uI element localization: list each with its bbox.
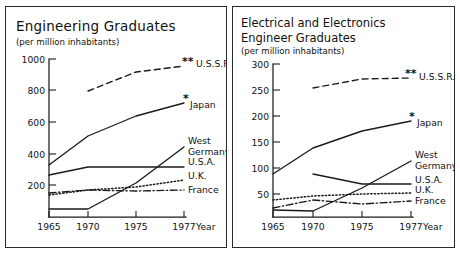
y-tick-label-200: 200 bbox=[27, 180, 45, 191]
series-line-ussr bbox=[313, 78, 411, 88]
series-line-japan bbox=[273, 121, 411, 174]
x-tick-label-1970: 1970 bbox=[76, 221, 100, 232]
series-label-france: France bbox=[415, 195, 446, 206]
y-tick-label-200: 200 bbox=[251, 111, 269, 122]
y-tick-label-400: 400 bbox=[27, 149, 45, 160]
y-tick-label-600: 600 bbox=[27, 117, 45, 128]
chart-panel-electrical-electronics-engineer-graduates: Electrical and Electronics Engineer Grad… bbox=[232, 6, 455, 248]
chart-subtitle: (per million inhabitants) bbox=[16, 37, 119, 47]
x-tick-label-1975: 1975 bbox=[350, 221, 374, 232]
y-tick-marks bbox=[273, 64, 280, 194]
x-tick-label-1965: 1965 bbox=[37, 221, 61, 232]
y-tick-label-150: 150 bbox=[251, 137, 269, 148]
x-tick-label-1977: 1977 bbox=[172, 221, 196, 232]
series-line-west-germany bbox=[49, 147, 184, 209]
y-tick-marks bbox=[49, 59, 56, 185]
series-label-usa: U.S.A. bbox=[188, 156, 215, 167]
y-tick-label-300: 300 bbox=[251, 59, 269, 70]
series-label-uk: U.K. bbox=[188, 170, 207, 181]
chart-subtitle: (per million inhabitants) bbox=[241, 46, 344, 56]
x-axis-caption: Year bbox=[422, 221, 443, 232]
engineering-graduates-chart: Engineering Graduates (per million inhab… bbox=[6, 7, 226, 247]
series-line-uk bbox=[273, 193, 411, 200]
x-tick-marks bbox=[49, 211, 184, 217]
series-line-france bbox=[273, 200, 411, 208]
series-line-usa bbox=[313, 174, 411, 184]
x-tick-marks bbox=[273, 211, 411, 217]
x-tick-label-1977: 1977 bbox=[399, 221, 423, 232]
figure-root: Engineering Graduates (per million inhab… bbox=[0, 0, 460, 254]
electrical-electronics-chart: Electrical and Electronics Engineer Grad… bbox=[233, 7, 454, 247]
x-tick-label-1975: 1975 bbox=[124, 221, 148, 232]
chart-panel-engineering-graduates: Engineering Graduates (per million inhab… bbox=[5, 6, 227, 248]
series-label-ussr: U.S.S.R. bbox=[419, 71, 454, 82]
chart-title: Engineering Graduates bbox=[16, 18, 176, 34]
series-line-west-germany bbox=[273, 161, 411, 211]
marker-ussr-double-star: ** bbox=[182, 55, 194, 68]
chart-title-line2: Engineer Graduates bbox=[241, 31, 356, 45]
series-line-usa bbox=[49, 167, 184, 175]
series-line-japan bbox=[49, 103, 184, 165]
series-label-west-germany-line1: WestGermany bbox=[188, 135, 226, 157]
marker-ussr-double-star: ** bbox=[405, 67, 417, 80]
y-tick-label-1000: 1000 bbox=[22, 54, 46, 65]
series-line-ussr bbox=[88, 66, 184, 91]
x-tick-label-1965: 1965 bbox=[261, 221, 285, 232]
series-line-uk bbox=[49, 180, 184, 195]
series-label-france: France bbox=[188, 184, 219, 195]
marker-japan-star: * bbox=[409, 110, 415, 123]
chart-title-line1: Electrical and Electronics bbox=[241, 16, 385, 30]
y-tick-label-100: 100 bbox=[251, 163, 269, 174]
x-axis-caption: Year bbox=[195, 221, 216, 232]
y-tick-label-50: 50 bbox=[257, 189, 269, 200]
series-label-japan: Japan bbox=[416, 117, 443, 128]
series-label-ussr: U.S.S.R. bbox=[196, 58, 226, 69]
series-label-west-germany-line1: WestGermany bbox=[415, 149, 454, 171]
series-label-uk: U.K. bbox=[415, 184, 434, 195]
y-tick-label-250: 250 bbox=[251, 85, 269, 96]
marker-japan-star: * bbox=[183, 92, 189, 105]
y-tick-label-800: 800 bbox=[27, 85, 45, 96]
x-tick-label-1970: 1970 bbox=[301, 221, 325, 232]
series-label-japan: Japan bbox=[189, 99, 216, 110]
